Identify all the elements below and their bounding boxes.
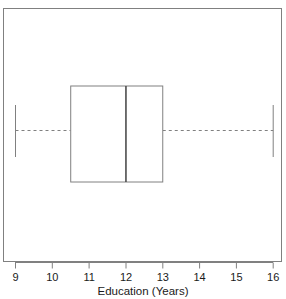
box-iqr-rect <box>71 86 163 182</box>
x-tick-label: 13 <box>157 271 169 283</box>
x-axis-title: Education (Years) <box>98 285 189 297</box>
x-tick-label: 15 <box>230 271 242 283</box>
x-tick-label: 9 <box>12 271 18 283</box>
x-tick-label: 11 <box>83 271 94 283</box>
box-plot-canvas: 9 10 11 12 13 14 15 16 Education (Years) <box>0 0 286 299</box>
x-tick-label: 12 <box>120 271 132 283</box>
x-tick-label: 14 <box>193 271 205 283</box>
box-plot-figure: 9 10 11 12 13 14 15 16 Education (Years) <box>0 0 286 299</box>
x-tick-label: 16 <box>267 271 279 283</box>
x-tick-label: 10 <box>46 271 58 283</box>
